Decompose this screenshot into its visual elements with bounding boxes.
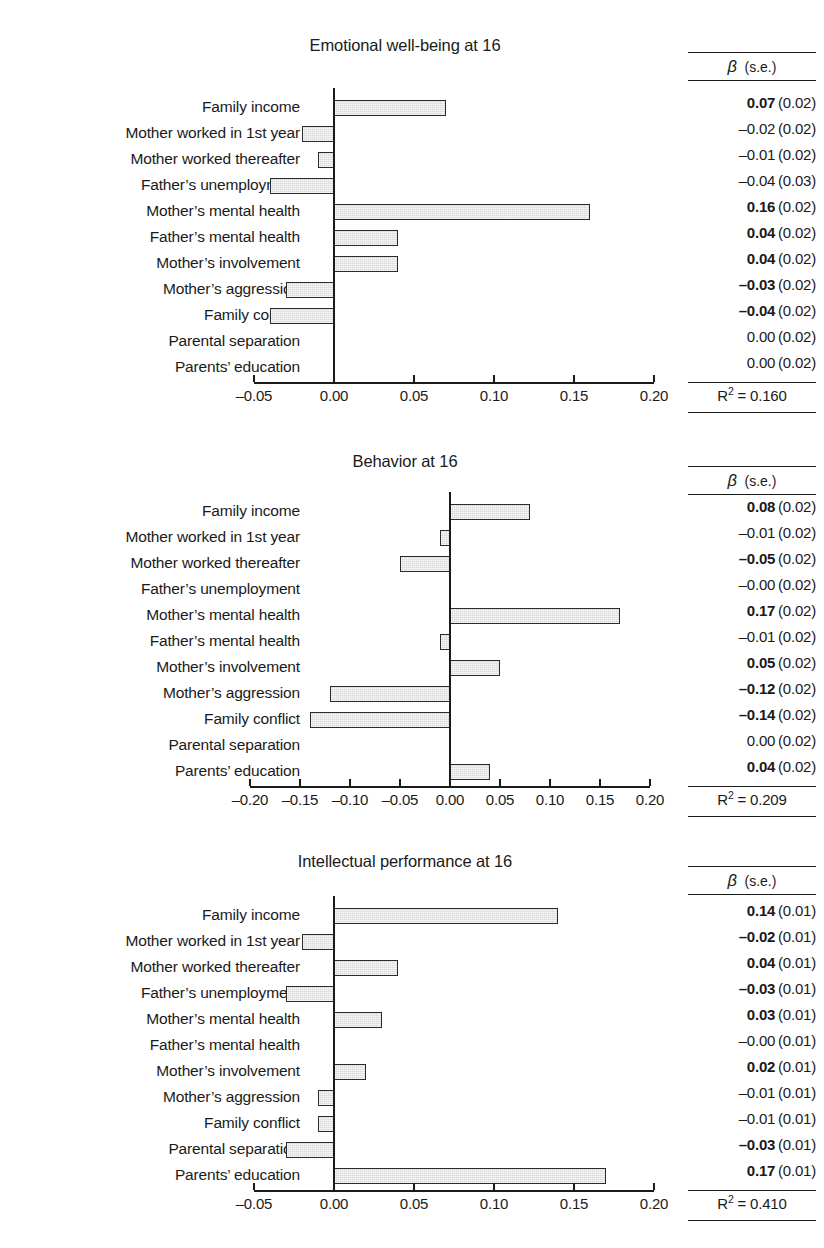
stats-rule-bottom bbox=[688, 1190, 816, 1191]
stat-row-8: –0.01 (0.01) bbox=[688, 1084, 816, 1110]
bar-11 bbox=[334, 1168, 606, 1184]
bar-1 bbox=[334, 908, 558, 924]
stats-header: β (s.e.) bbox=[688, 871, 816, 890]
row-label-6: Father’s mental health bbox=[0, 1036, 300, 1054]
stats-column: β (s.e.)0.14 (0.01)–0.02 (0.01)0.04 (0.0… bbox=[688, 866, 816, 1230]
x-axis-tick bbox=[253, 1183, 255, 1190]
chart-panel-3: Intellectual performance at 16Family inc… bbox=[0, 0, 824, 1248]
beta-value: –0.03 bbox=[739, 980, 776, 997]
se-value: (0.01) bbox=[778, 902, 816, 919]
stats-rule-footer bbox=[688, 1220, 816, 1221]
se-value: (0.01) bbox=[778, 1162, 816, 1179]
stat-row-6: –0.00 (0.01) bbox=[688, 1032, 816, 1058]
stat-row-11: 0.17 (0.01) bbox=[688, 1162, 816, 1188]
row-label-3: Mother worked thereafter bbox=[0, 958, 300, 976]
stat-row-9: –0.01 (0.01) bbox=[688, 1110, 816, 1136]
beta-value: 0.04 bbox=[747, 954, 775, 971]
stat-row-2: –0.02 (0.01) bbox=[688, 928, 816, 954]
row-label-11: Parents’ education bbox=[0, 1166, 300, 1184]
row-label-9: Family conflict bbox=[0, 1114, 300, 1132]
se-value: (0.01) bbox=[778, 1110, 816, 1127]
se-value: (0.01) bbox=[778, 954, 816, 971]
chart-row: Mother worked in 1st year bbox=[0, 930, 690, 956]
bar-10 bbox=[286, 1142, 334, 1158]
x-axis-tick bbox=[493, 1183, 495, 1190]
zero-axis-line bbox=[333, 896, 335, 1190]
stat-row-3: 0.04 (0.01) bbox=[688, 954, 816, 980]
r-squared-value: R2 = 0.410 bbox=[688, 1195, 816, 1212]
beta-value: 0.17 bbox=[747, 1162, 775, 1179]
beta-value: 0.14 bbox=[747, 902, 775, 919]
se-value: (0.01) bbox=[778, 1136, 816, 1153]
row-label-4: Father’s unemployment bbox=[0, 984, 300, 1002]
row-label-1: Family income bbox=[0, 906, 300, 924]
beta-value: 0.02 bbox=[747, 1058, 775, 1075]
se-value: (0.01) bbox=[778, 1084, 816, 1101]
stats-rule-header bbox=[688, 894, 816, 895]
bar-9 bbox=[318, 1116, 334, 1132]
chart-row: Family conflict bbox=[0, 1112, 690, 1138]
chart-row: Mother’s involvement bbox=[0, 1060, 690, 1086]
beta-value: 0.03 bbox=[747, 1006, 775, 1023]
x-axis-line bbox=[254, 1190, 654, 1192]
chart-row: Mother worked thereafter bbox=[0, 956, 690, 982]
chart-row: Family income bbox=[0, 904, 690, 930]
chart-row: Parental separation bbox=[0, 1138, 690, 1164]
beta-value: –0.00 bbox=[739, 1032, 776, 1049]
x-axis-tick-label: 0.05 bbox=[400, 1195, 428, 1212]
chart-row: Father’s unemployment bbox=[0, 982, 690, 1008]
x-axis-tick-label: 0.00 bbox=[320, 1195, 348, 1212]
chart-row: Parents’ education bbox=[0, 1164, 690, 1190]
bar-2 bbox=[302, 934, 334, 950]
row-label-7: Mother’s involvement bbox=[0, 1062, 300, 1080]
stat-row-10: –0.03 (0.01) bbox=[688, 1136, 816, 1162]
row-label-2: Mother worked in 1st year bbox=[0, 932, 300, 950]
stat-row-7: 0.02 (0.01) bbox=[688, 1058, 816, 1084]
x-axis-tick bbox=[573, 1183, 575, 1190]
row-label-5: Mother’s mental health bbox=[0, 1010, 300, 1028]
x-axis-tick bbox=[333, 1183, 335, 1190]
row-label-10: Parental separation bbox=[0, 1140, 300, 1158]
se-value: (0.01) bbox=[778, 928, 816, 945]
se-label: (s.e.) bbox=[745, 873, 777, 889]
panel-title: Intellectual performance at 16 bbox=[150, 852, 660, 871]
bar-3 bbox=[334, 960, 398, 976]
row-label-8: Mother’s aggression bbox=[0, 1088, 300, 1106]
x-axis-tick-label: –0.05 bbox=[236, 1195, 273, 1212]
stats-rule-top bbox=[688, 866, 816, 867]
se-value: (0.01) bbox=[778, 1058, 816, 1075]
beta-value: –0.01 bbox=[739, 1110, 776, 1127]
x-axis-tick-label: 0.20 bbox=[640, 1195, 668, 1212]
stat-row-4: –0.03 (0.01) bbox=[688, 980, 816, 1006]
bar-4 bbox=[286, 986, 334, 1002]
bar-7 bbox=[334, 1064, 366, 1080]
x-axis-tick-label: 0.10 bbox=[480, 1195, 508, 1212]
beta-value: –0.01 bbox=[739, 1084, 776, 1101]
beta-symbol: β bbox=[728, 871, 737, 889]
bar-8 bbox=[318, 1090, 334, 1106]
stat-row-1: 0.14 (0.01) bbox=[688, 902, 816, 928]
x-axis-tick bbox=[653, 1183, 655, 1190]
bar-5 bbox=[334, 1012, 382, 1028]
x-axis-tick bbox=[413, 1183, 415, 1190]
beta-value: –0.02 bbox=[739, 928, 776, 945]
chart-row: Mother’s aggression bbox=[0, 1086, 690, 1112]
beta-value: –0.03 bbox=[739, 1136, 776, 1153]
chart-row: Father’s mental health bbox=[0, 1034, 690, 1060]
regression-bar-chart-figure: Emotional well-being at 16Family incomeM… bbox=[0, 0, 824, 1248]
chart-row: Mother’s mental health bbox=[0, 1008, 690, 1034]
se-value: (0.01) bbox=[778, 1032, 816, 1049]
x-axis-tick-label: 0.15 bbox=[560, 1195, 588, 1212]
se-value: (0.01) bbox=[778, 980, 816, 997]
se-value: (0.01) bbox=[778, 1006, 816, 1023]
stat-row-5: 0.03 (0.01) bbox=[688, 1006, 816, 1032]
